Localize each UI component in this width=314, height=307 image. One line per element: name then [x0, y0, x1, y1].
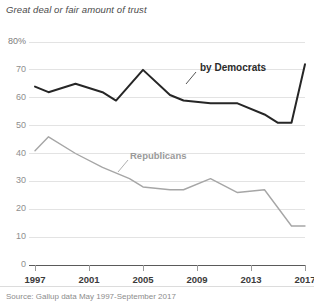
y-axis-tick-label: 70 [0, 65, 26, 74]
x-axis-tick-label: 2009 [186, 274, 207, 285]
series-lines [35, 64, 305, 226]
y-axis-tick-label: 10 [0, 232, 26, 241]
y-axis-tick-label: 20 [0, 204, 26, 213]
source-note: Source: Gallup data May 1997-September 2… [6, 292, 176, 301]
y-axis-tick-label: 40 [0, 149, 26, 158]
y-axis-tick-label: 30 [0, 176, 26, 185]
x-axis-ticks [35, 265, 305, 271]
x-axis-tick-label: 1997 [24, 274, 45, 285]
x-axis-tick-label: 2001 [78, 274, 99, 285]
series-line [35, 64, 305, 123]
series-label-democrats: by Democrats [200, 62, 266, 73]
x-axis-tick-label: 2017 [294, 274, 314, 285]
y-axis-tick-label: 80% [0, 37, 26, 46]
y-axis-tick-label: 0 [0, 260, 26, 269]
chart-container: Great deal or fair amount of trust 80%70… [0, 0, 314, 307]
x-axis-tick-label: 2013 [240, 274, 261, 285]
y-axis-tick-label: 60 [0, 93, 26, 102]
footer-divider [0, 286, 314, 287]
x-axis-tick-label: 2005 [132, 274, 153, 285]
y-axis-tick-label: 50 [0, 121, 26, 130]
annotation-leader-line [186, 72, 196, 84]
series-label-republicans: Republicans [130, 150, 187, 161]
annotation-leader-line [118, 160, 128, 172]
